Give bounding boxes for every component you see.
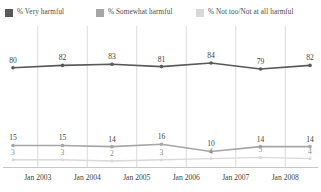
- data-point[interactable]: [210, 157, 213, 160]
- legend-item-not-too-harmful[interactable]: % Not too/Not at all harmful: [196, 8, 294, 17]
- legend-swatch-icon: [5, 9, 13, 17]
- x-axis-tick-label: Jan 2006: [173, 173, 200, 183]
- x-axis-tick-label: Jan 2004: [74, 173, 101, 183]
- x-axis-tick-label: Jan 2008: [272, 173, 299, 183]
- x-axis-tick-label: Jan 2007: [222, 173, 249, 183]
- data-point[interactable]: [259, 67, 263, 71]
- plot-area: 80828381847982151514161014143323454: [0, 26, 321, 168]
- data-point-label: 5: [259, 146, 263, 154]
- data-point-label: 3: [160, 149, 164, 157]
- chart-container: % Very harmful % Somewhat harmful % Not …: [0, 0, 321, 192]
- data-point-label: 14: [108, 136, 116, 144]
- data-point[interactable]: [110, 62, 114, 66]
- data-point-label: 80: [9, 57, 17, 65]
- data-point[interactable]: [61, 158, 64, 161]
- legend-item-somewhat-harmful[interactable]: % Somewhat harmful: [96, 8, 172, 17]
- data-point[interactable]: [11, 66, 15, 70]
- data-point[interactable]: [309, 157, 312, 160]
- data-point-label: 4: [209, 148, 213, 156]
- chart-legend: % Very harmful % Somewhat harmful % Not …: [0, 0, 321, 26]
- legend-item-label: % Somewhat harmful: [108, 8, 172, 17]
- data-point-label: 82: [306, 54, 314, 62]
- data-point-label: 15: [9, 134, 17, 142]
- data-point[interactable]: [160, 142, 164, 146]
- x-axis-tick-label: Jan 2003: [24, 173, 51, 183]
- series-lines: [13, 63, 310, 161]
- data-point[interactable]: [61, 64, 65, 68]
- data-point-label: 81: [158, 56, 166, 64]
- legend-item-label: % Not too/Not at all harmful: [208, 8, 294, 17]
- data-point[interactable]: [160, 158, 163, 161]
- data-point-label: 3: [11, 149, 15, 157]
- data-point-label: 3: [61, 149, 65, 157]
- data-point-label: 14: [306, 136, 314, 144]
- data-point[interactable]: [12, 158, 15, 161]
- data-point-label: 82: [59, 54, 67, 62]
- data-point[interactable]: [259, 156, 262, 159]
- data-point[interactable]: [160, 65, 164, 69]
- legend-swatch-icon: [196, 9, 204, 17]
- legend-item-label: % Very harmful: [17, 8, 64, 17]
- data-point-label: 83: [108, 53, 116, 61]
- data-point[interactable]: [110, 145, 114, 149]
- plot-svg: [0, 26, 321, 168]
- data-point-label: 14: [257, 136, 265, 144]
- data-point[interactable]: [308, 64, 312, 68]
- data-point[interactable]: [11, 144, 15, 148]
- data-point[interactable]: [61, 144, 65, 148]
- x-axis-tick-label: Jan 2005: [123, 173, 150, 183]
- legend-item-very-harmful[interactable]: % Very harmful: [5, 8, 64, 17]
- data-point[interactable]: [111, 160, 114, 163]
- data-point-label: 84: [207, 52, 215, 60]
- data-point-label: 2: [110, 150, 114, 158]
- data-point-label: 16: [158, 133, 166, 141]
- data-point[interactable]: [209, 61, 213, 65]
- data-point-label: 79: [257, 58, 265, 66]
- legend-swatch-icon: [96, 9, 104, 17]
- data-point-label: 15: [59, 134, 67, 142]
- data-point-label: 4: [308, 148, 312, 156]
- x-axis: Jan 2003Jan 2004Jan 2005Jan 2006Jan 2007…: [0, 168, 321, 192]
